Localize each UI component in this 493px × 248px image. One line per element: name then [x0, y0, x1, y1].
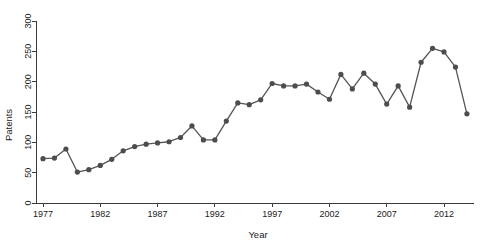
data-point — [430, 46, 435, 51]
data-point — [292, 83, 297, 88]
data-point — [441, 49, 446, 54]
data-point — [384, 102, 389, 107]
data-point — [270, 81, 275, 86]
data-point — [109, 157, 114, 162]
x-axis: 19771982198719921997200220072012 — [33, 203, 474, 219]
y-axis: 050100150200250300 — [23, 13, 36, 205]
data-point — [327, 97, 332, 102]
data-point — [407, 105, 412, 110]
data-point — [258, 97, 263, 102]
x-axis-title: Year — [248, 229, 267, 240]
data-point — [166, 139, 171, 144]
x-tick-label: 1982 — [90, 209, 110, 219]
data-point — [373, 81, 378, 86]
data-point — [396, 83, 401, 88]
data-point — [212, 137, 217, 142]
x-tick-label: 1992 — [205, 209, 225, 219]
data-point — [132, 144, 137, 149]
y-tick-label: 100 — [23, 135, 33, 150]
y-tick-label: 150 — [23, 104, 33, 119]
x-tick-label: 2002 — [319, 209, 339, 219]
y-tick-label: 50 — [23, 168, 33, 178]
x-tick-label: 1977 — [33, 209, 53, 219]
data-point — [201, 137, 206, 142]
series-line-patents — [43, 48, 467, 172]
data-point — [338, 72, 343, 77]
data-point — [63, 146, 68, 151]
y-tick-label: 200 — [23, 74, 33, 89]
data-point — [453, 65, 458, 70]
y-axis-title: Patents — [3, 109, 14, 141]
data-point — [418, 60, 423, 65]
x-tick-label: 2007 — [377, 209, 397, 219]
data-point — [178, 135, 183, 140]
data-point — [75, 169, 80, 174]
y-tick-label: 0 — [23, 200, 33, 205]
data-point — [98, 163, 103, 168]
data-point — [281, 83, 286, 88]
data-point — [155, 140, 160, 145]
data-point — [247, 102, 252, 107]
x-tick-label: 2012 — [434, 209, 454, 219]
data-point — [40, 156, 45, 161]
plot-area: 050100150200250300 197719821987199219972… — [0, 0, 493, 248]
x-tick-label: 1997 — [262, 209, 282, 219]
data-point — [121, 148, 126, 153]
data-point — [189, 123, 194, 128]
data-point — [464, 111, 469, 116]
data-point — [304, 81, 309, 86]
patents-by-year-chart: 050100150200250300 197719821987199219972… — [0, 0, 493, 248]
y-tick-label: 250 — [23, 44, 33, 59]
x-tick-label: 1987 — [148, 209, 168, 219]
data-series-patents — [40, 46, 469, 175]
data-point — [224, 119, 229, 124]
data-point — [52, 156, 57, 161]
data-point — [235, 100, 240, 105]
data-point — [350, 86, 355, 91]
y-tick-label: 300 — [23, 13, 33, 28]
data-point — [144, 142, 149, 147]
data-point — [315, 89, 320, 94]
data-point — [361, 71, 366, 76]
data-point — [86, 167, 91, 172]
